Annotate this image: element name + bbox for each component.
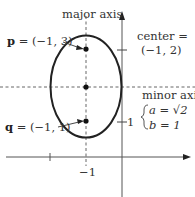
y-tick-label-1: 1 (127, 115, 134, 129)
brace-icon (141, 105, 148, 129)
q-label-coords: = (−1, 1) (13, 120, 71, 134)
ellipse-diagram: major axis center = (−1, 2) p = (−1, 3) … (0, 0, 195, 197)
major-axis-label: major axis (62, 7, 122, 21)
p-label: p = (−1, 3) (7, 34, 73, 48)
x-tick-label-neg1: −1 (79, 165, 96, 179)
center-label-line2: (−1, 2) (141, 43, 182, 57)
p-label-coords: = (−1, 3) (15, 34, 73, 48)
point-p (83, 46, 88, 51)
minor-axis-label: minor axis (142, 88, 195, 102)
point-center (83, 84, 88, 89)
x-axis (6, 153, 191, 161)
x-axis-arrow-icon (183, 154, 191, 160)
q-label-symbol: q (5, 120, 13, 134)
p-label-symbol: p (7, 34, 15, 48)
b-value: b = 1 (149, 118, 181, 132)
q-label: q = (−1, 1) (5, 120, 71, 134)
a-value: a = √2 (149, 103, 187, 117)
center-label-line1: center = (137, 29, 188, 43)
point-q (83, 118, 88, 123)
